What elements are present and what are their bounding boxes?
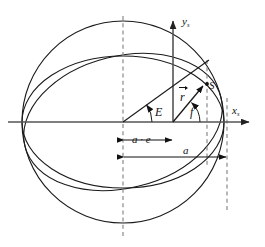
y-axis-label: ys: [182, 16, 189, 27]
semi-major-axis-label: a: [183, 145, 189, 156]
diagram-canvas: [0, 0, 265, 247]
eccentric-anomaly-label: E: [155, 106, 162, 118]
satellite-label: S: [209, 80, 215, 91]
radius-vector-arrow: [173, 86, 203, 122]
focal-distance-label: a · e: [132, 134, 151, 145]
orbital-geometry-figure: ys xs E f r S a · e a: [0, 0, 265, 247]
radius-vector-label: r: [180, 91, 185, 103]
true-anomaly-label: f: [190, 106, 193, 118]
eccentric-anomaly-arc: [147, 105, 153, 122]
x-axis-label: xs: [232, 105, 239, 116]
eccentric-anomaly-ray: [123, 60, 209, 122]
